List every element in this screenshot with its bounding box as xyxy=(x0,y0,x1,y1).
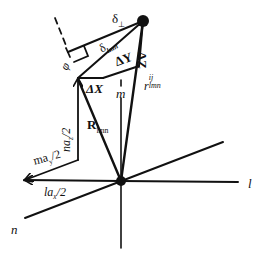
label-l-axis: l xyxy=(248,177,252,190)
label-na-z: naz/2 xyxy=(60,128,76,152)
delta-z-text: ΔZ xyxy=(135,52,150,69)
label-delta-z: ΔZ xyxy=(136,52,149,69)
label-delta-x: ΔX xyxy=(86,82,103,95)
ma-pre: ma xyxy=(32,150,50,167)
r-sub: lmn xyxy=(149,82,161,90)
la-post: /2 xyxy=(57,185,66,199)
label-la-x: lax/2 xyxy=(44,186,66,202)
na-pre: na xyxy=(59,140,73,152)
label-m-axis: m xyxy=(116,87,125,100)
diagram-canvas xyxy=(0,0,266,258)
r-lmn-ij-vector xyxy=(121,21,143,181)
dashed-reference-line xyxy=(55,18,67,48)
na-sub: z xyxy=(67,137,75,140)
delta-x-text: ΔX xyxy=(86,81,103,96)
R-base: R xyxy=(87,117,96,132)
R-sub: lmn xyxy=(96,126,108,135)
m-axis-text: m xyxy=(116,86,125,101)
origin-point xyxy=(116,176,126,186)
target-point xyxy=(137,15,149,27)
na-post: /2 xyxy=(59,128,73,137)
label-r-lmn-ij: rijlmn xyxy=(144,76,161,92)
delta-perp-sub: ⊥ xyxy=(118,20,125,29)
la-x-arrow xyxy=(25,180,121,181)
l-axis xyxy=(121,181,238,182)
n-axis-text: n xyxy=(11,222,18,237)
la-pre: la xyxy=(44,185,53,199)
label-R-lmn: Rlmn xyxy=(87,118,109,134)
label-n-axis: n xyxy=(11,223,18,236)
label-delta-perp: δ⊥ xyxy=(112,12,125,28)
l-axis-text: l xyxy=(248,176,252,191)
